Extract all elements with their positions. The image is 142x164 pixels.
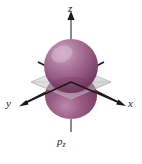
x-axis-label: x (128, 98, 133, 109)
orbital-illustration (0, 0, 142, 164)
upper-lobe (44, 39, 98, 93)
caption-fragment (4, 157, 136, 163)
pz-orbital-figure: z x y pz (0, 0, 142, 164)
y-axis-arrowhead (19, 100, 29, 107)
orbital-label: pz (57, 136, 66, 149)
orbital-subscript: z (63, 140, 66, 149)
y-axis-label: y (6, 98, 11, 109)
z-axis-label: z (68, 3, 72, 14)
